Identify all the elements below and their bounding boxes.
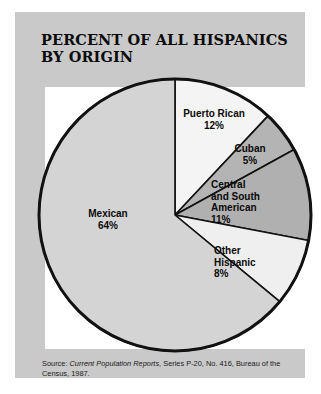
slice-label-cuban: Cuban 5% [222,143,278,166]
source-note: Source: Current Population Reports, Seri… [42,359,304,378]
slice-label-central-and-south-american: Central and South American 11% [211,179,285,225]
source-publication: Current Population Reports [70,359,160,368]
slice-label-puerto-rican: Puerto Rican 12% [173,108,255,131]
chart-card: PERCENT OF ALL HISPANICS BY ORIGIN Puert… [15,12,305,378]
slice-label-other-hispanic: Other Hispanic 8% [214,245,276,280]
page-title: PERCENT OF ALL HISPANICS BY ORIGIN [41,32,291,65]
source-prefix: Source: [42,359,70,368]
slice-label-mexican: Mexican 64% [63,208,153,231]
